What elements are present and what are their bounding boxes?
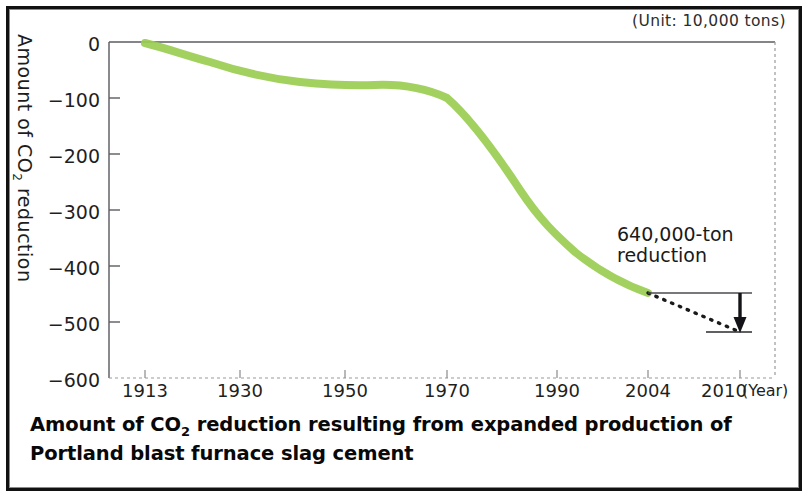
projection-dotted-line	[648, 293, 740, 332]
y-tick-minus600: −600	[28, 369, 100, 370]
chart-figure: (Unit: 10,000 tons) Amount of CO2 reduct…	[0, 0, 808, 497]
annotation-line-2: reduction	[617, 245, 734, 266]
x-tick-label-1990: 1990	[517, 380, 597, 401]
dotted-projection	[648, 293, 740, 332]
y-tick-label: −100	[34, 89, 100, 111]
y-tick-minus200: −200	[28, 145, 100, 146]
y-tick-0: 0	[28, 33, 100, 34]
y-tick-minus300: −300	[28, 201, 100, 202]
x-tick-label-1950: 1950	[305, 380, 385, 401]
y-tick-label: −400	[34, 257, 100, 279]
caption-text-b: reduction resulting from expanded produc…	[190, 413, 732, 436]
caption-subscript: 2	[181, 424, 190, 439]
y-tick-minus500: −500	[28, 313, 100, 314]
green-trend-line	[145, 43, 648, 293]
y-tick-marks	[109, 98, 120, 322]
x-tick-label-2004: 2004	[608, 380, 688, 401]
x-axis-unit-label: (Year)	[742, 381, 788, 400]
reduction-annotation: 640,000-ton reduction	[617, 224, 734, 267]
y-tick-label: −600	[34, 369, 100, 391]
x-tick-label-1970: 1970	[407, 380, 487, 401]
figure-caption: Amount of CO2 reduction resulting from e…	[30, 412, 772, 466]
caption-line-2: Portland blast furnace slag cement	[30, 442, 414, 465]
y-tick-minus400: −400	[28, 257, 100, 258]
reduction-gap-arrow	[734, 293, 747, 333]
x-tick-label-1930: 1930	[200, 380, 280, 401]
annotation-line-1: 640,000-ton	[617, 224, 734, 245]
caption-text-a: Amount of CO	[30, 413, 181, 436]
y-tick-label: −300	[34, 201, 100, 223]
y-tick-label: 0	[34, 33, 100, 55]
y-tick-label: −200	[34, 145, 100, 167]
x-tick-marks	[145, 370, 740, 378]
x-tick-label-1913: 1913	[105, 380, 185, 401]
y-tick-label: −500	[34, 313, 100, 335]
series-co2-reduction	[145, 43, 648, 293]
y-tick-minus100: −100	[28, 89, 100, 90]
